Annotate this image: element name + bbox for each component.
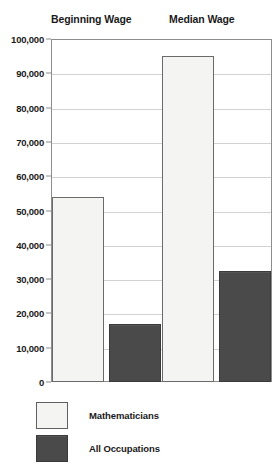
dark-swatch-icon xyxy=(36,435,68,462)
group-header-median-wage: Median Wage xyxy=(169,13,235,25)
legend-item-mathematicians: Mathematicians xyxy=(36,399,256,432)
y-axis-tick-label: 50,000 xyxy=(16,205,44,216)
bar-chart: Beginning Wage Median Wage 010,00020,000… xyxy=(0,0,278,472)
y-axis-tick-label: 40,000 xyxy=(16,239,44,250)
legend-item-all-occupations: All Occupations xyxy=(36,432,256,465)
y-axis-tick-label: 10,000 xyxy=(16,342,44,353)
bar xyxy=(109,324,161,382)
y-axis-tick-label: 80,000 xyxy=(16,102,44,113)
y-axis: 010,00020,00030,00040,00050,00060,00070,… xyxy=(0,39,51,382)
bar xyxy=(162,56,214,382)
group-header-row: Beginning Wage Median Wage xyxy=(48,13,273,31)
y-axis-tick-label: 90,000 xyxy=(16,68,44,79)
y-axis-tick-label: 20,000 xyxy=(16,308,44,319)
bar xyxy=(52,197,104,382)
y-axis-tick-label: 30,000 xyxy=(16,274,44,285)
group-header-beginning-wage: Beginning Wage xyxy=(51,13,131,25)
chart-legend: Mathematicians All Occupations xyxy=(36,399,256,465)
y-axis-tick-label: 0 xyxy=(39,377,44,388)
y-axis-tick-label: 70,000 xyxy=(16,136,44,147)
bars-layer xyxy=(51,39,272,382)
light-swatch-icon xyxy=(36,402,68,429)
legend-label-all-occupations: All Occupations xyxy=(89,443,160,454)
bar xyxy=(219,271,271,382)
legend-label-mathematicians: Mathematicians xyxy=(89,410,159,421)
y-axis-tick-label: 60,000 xyxy=(16,171,44,182)
y-axis-tick-label: 100,000 xyxy=(11,34,44,45)
